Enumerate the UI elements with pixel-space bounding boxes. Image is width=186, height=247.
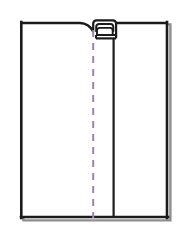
panel-fill: [21, 22, 168, 218]
pattern-diagram-figure: Garment pattern panel with top pleat det…: [0, 0, 186, 247]
pattern-drawing-canvas: [0, 0, 186, 247]
